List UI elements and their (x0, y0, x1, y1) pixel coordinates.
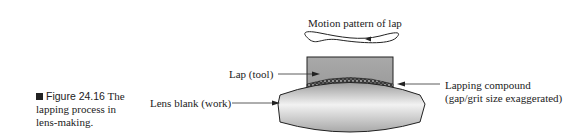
compound-arrow (397, 82, 440, 87)
figure-number: Figure 24.16 (46, 90, 105, 102)
motion-pattern-icon (305, 32, 399, 43)
caption-text-1: The (108, 90, 125, 102)
lens-blank-label: Lens blank (work) (150, 97, 231, 109)
motion-pattern-label: Motion pattern of lap (308, 17, 402, 29)
caption-text-2: lapping process in (36, 103, 116, 115)
caption-marker-icon (36, 93, 43, 100)
lens-arrow (232, 101, 280, 106)
caption-text-3: lens-making. (36, 116, 93, 128)
figure-caption: Figure 24.16 The lapping process in lens… (36, 90, 128, 129)
lap-tool-label: Lap (tool) (229, 68, 273, 80)
lens-blank (278, 83, 425, 133)
lap-arrow (278, 72, 320, 77)
lapping-compound-label: Lapping compound (445, 79, 531, 91)
lapping-compound-note: (gap/grit size exaggerated) (445, 92, 562, 104)
